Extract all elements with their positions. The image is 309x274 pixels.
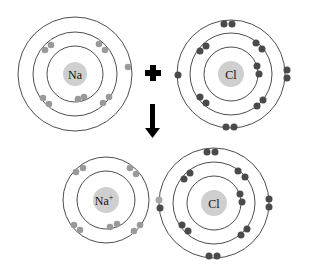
- plus-icon: [145, 65, 161, 81]
- electron: [260, 97, 267, 104]
- electron: [77, 227, 84, 234]
- electron: [223, 124, 230, 131]
- electron: [179, 222, 186, 229]
- chloride-ion: Cl: [156, 148, 273, 260]
- electron: [254, 63, 261, 70]
- valence-electron: [125, 64, 132, 71]
- electron: [133, 171, 140, 178]
- electron: [187, 170, 194, 177]
- electron: [107, 224, 114, 231]
- electron: [237, 191, 244, 198]
- electron: [221, 21, 228, 28]
- electron: [203, 100, 210, 107]
- electron: [127, 165, 134, 172]
- electron: [102, 47, 109, 54]
- electron: [206, 253, 213, 260]
- electron: [266, 196, 273, 203]
- electron: [212, 149, 219, 156]
- electron: [284, 67, 291, 74]
- electron: [46, 101, 53, 108]
- electron: [197, 94, 204, 101]
- electron: [197, 48, 204, 55]
- electron: [203, 43, 210, 50]
- electron: [73, 169, 80, 176]
- electron: [229, 21, 236, 28]
- electron: [48, 42, 55, 49]
- electron: [235, 168, 242, 175]
- electron: [239, 199, 246, 206]
- electron: [157, 205, 164, 212]
- electron: [137, 222, 144, 229]
- electron: [114, 221, 121, 228]
- electron: [75, 96, 82, 103]
- sodium-ion: Na+: [63, 157, 149, 243]
- electron: [204, 149, 211, 156]
- cl-label: Cl: [225, 68, 237, 82]
- electron: [175, 72, 182, 79]
- electron: [181, 176, 188, 183]
- electron: [242, 174, 249, 181]
- electron: [256, 71, 263, 78]
- sodium-atom: Na: [18, 17, 132, 131]
- electron: [231, 124, 238, 131]
- electron: [266, 204, 273, 211]
- electron: [185, 228, 192, 235]
- electron: [254, 103, 261, 110]
- electron: [253, 40, 260, 47]
- ionic-bond-diagram: Na Cl: [0, 0, 309, 274]
- electron: [80, 165, 87, 172]
- electron: [244, 226, 251, 233]
- electron: [42, 47, 49, 54]
- electron: [40, 95, 47, 102]
- electron: [259, 46, 266, 53]
- transferred-electron: [156, 197, 163, 204]
- electron: [238, 232, 245, 239]
- electron: [214, 253, 221, 260]
- na-label: Na: [68, 68, 83, 82]
- chlorine-atom: Cl: [175, 20, 291, 131]
- electron: [81, 94, 88, 101]
- down-arrow-icon: [145, 104, 160, 138]
- electron: [106, 94, 113, 101]
- electron: [284, 75, 291, 82]
- electron: [100, 100, 107, 107]
- electron: [96, 41, 103, 48]
- cl-ion-label: Cl: [208, 197, 220, 211]
- electron: [131, 228, 138, 235]
- electron: [71, 222, 78, 229]
